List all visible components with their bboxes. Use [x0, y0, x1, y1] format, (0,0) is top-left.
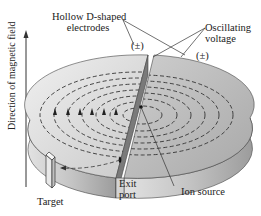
pm-left-label: (±) [131, 40, 144, 51]
cyclotron-diagram: Hollow D-shaped electrodes Oscillating v… [0, 0, 261, 216]
voltage-label-line1: Oscillating [205, 22, 251, 33]
exit-port-label: Exit port [119, 178, 137, 200]
electrodes-label-line2: electrodes [52, 22, 124, 33]
pm-right-label: (±) [196, 50, 209, 61]
electrodes-label-line1: Hollow D-shaped [52, 11, 124, 22]
magnetic-field-label: Direction of magnetic field [6, 21, 17, 130]
voltage-label: Oscillating voltage [205, 22, 251, 44]
ion-source-label: Ion source [181, 186, 225, 197]
exit-port-label-line2: port [119, 189, 137, 200]
target-label: Target [37, 196, 63, 207]
voltage-label-line2: voltage [205, 33, 251, 44]
exit-port-label-line1: Exit [119, 178, 137, 189]
target [46, 152, 55, 188]
electrodes-label: Hollow D-shaped electrodes [52, 11, 124, 33]
